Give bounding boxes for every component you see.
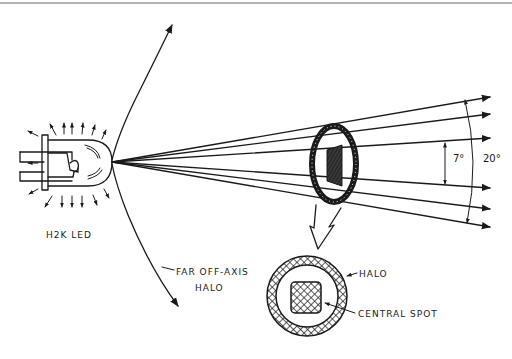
- projected-beam-pattern: [267, 256, 357, 336]
- central-spot-perspective: [327, 145, 342, 186]
- central-spot-label: CENTRAL SPOT: [358, 309, 438, 319]
- led-label: H2K LED: [46, 230, 92, 240]
- inner-angle-label: 7°: [453, 153, 464, 164]
- far-off-axis-label: FAR OFF-AXIS: [176, 267, 249, 277]
- led-beam-diagram: H2K LED FAR OFF-AXIS HALO 7° 20° HALO: [0, 0, 512, 359]
- far-off-axis-halo-label: HALO: [195, 283, 224, 293]
- beam-rays: [112, 97, 490, 227]
- outer-angle-label: 20°: [483, 153, 501, 164]
- halo-label: HALO: [359, 269, 388, 279]
- projection-arrow: [310, 205, 341, 249]
- beam-cross-section: [312, 126, 356, 202]
- leader-line: [162, 267, 174, 270]
- central-spot: [291, 282, 321, 313]
- led-drawing: [20, 123, 112, 207]
